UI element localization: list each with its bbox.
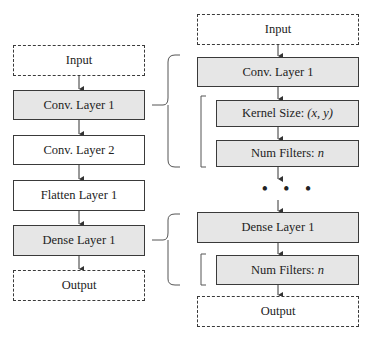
node-label: Output bbox=[261, 304, 296, 319]
node-label: Flatten Layer 1 bbox=[41, 188, 117, 203]
node-variable: (x, y) bbox=[307, 106, 333, 121]
node-label: Conv. Layer 2 bbox=[43, 143, 114, 158]
curly-braces bbox=[152, 55, 206, 285]
node-variable: n bbox=[318, 146, 324, 161]
node-label: Num Filters: bbox=[251, 146, 318, 161]
node-label: Conv. Layer 1 bbox=[242, 65, 313, 80]
node-label: Input bbox=[265, 22, 291, 37]
left-conv-layer-2-node: Conv. Layer 2 bbox=[13, 135, 145, 165]
left-output-node: Output bbox=[13, 270, 145, 301]
left-dense-layer-node: Dense Layer 1 bbox=[13, 225, 145, 256]
node-label: Input bbox=[66, 53, 92, 68]
node-label: Conv. Layer 1 bbox=[43, 98, 114, 113]
left-conv-layer-1-node: Conv. Layer 1 bbox=[13, 90, 145, 120]
node-label: Kernel Size: bbox=[242, 106, 307, 121]
right-conv-layer-1-node: Conv. Layer 1 bbox=[197, 57, 359, 87]
right-input-node: Input bbox=[197, 14, 359, 45]
ellipsis: • • • bbox=[262, 180, 317, 198]
node-label: Output bbox=[62, 278, 97, 293]
right-dense-layer-node: Dense Layer 1 bbox=[197, 212, 359, 243]
left-flatten-layer-node: Flatten Layer 1 bbox=[13, 180, 145, 211]
conv-num-filters-node: Num Filters: n bbox=[216, 140, 359, 167]
node-variable: n bbox=[318, 263, 324, 278]
dense-num-filters-node: Num Filters: n bbox=[216, 255, 359, 285]
left-input-node: Input bbox=[13, 45, 145, 76]
kernel-size-node: Kernel Size: (x, y) bbox=[216, 100, 359, 127]
right-output-node: Output bbox=[197, 296, 359, 327]
node-label: Dense Layer 1 bbox=[242, 220, 315, 235]
node-label: Num Filters: bbox=[251, 263, 318, 278]
node-label: Dense Layer 1 bbox=[43, 233, 116, 248]
